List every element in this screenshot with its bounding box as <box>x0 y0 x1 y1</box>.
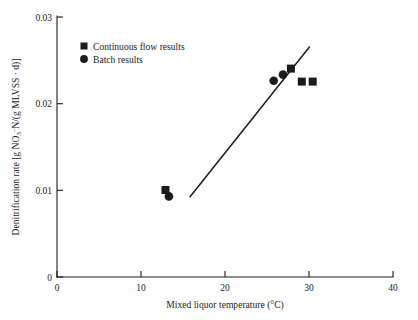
y-tick-label-003: 0.03 <box>35 13 52 23</box>
y-tick-label-000: 0 <box>47 273 52 283</box>
series-batch-markers <box>165 70 288 200</box>
series-continuous-flow-markers <box>162 65 317 194</box>
svg-text:Denitrification rate [g NO3–N/: Denitrification rate [g NO3–N/(g MLVSS ·… <box>10 59 22 236</box>
data-point-circle <box>269 76 278 85</box>
data-point-circle <box>279 70 288 79</box>
y-tick-label-002: 0.02 <box>35 99 52 109</box>
legend-marker-square-icon <box>81 43 88 50</box>
x-tick-label-0: 0 <box>55 283 60 293</box>
data-point-square <box>298 78 306 86</box>
legend-label-continuous-flow: Continuous flow results <box>93 41 185 52</box>
scatter-plot: 0.03 0.02 0.01 0 0 10 20 30 40 Mixed liq… <box>0 0 418 320</box>
data-point-square <box>287 65 295 73</box>
y-axis-title-tail: N/(g MLVSS · d)] <box>10 59 22 129</box>
x-tick-label-10: 10 <box>136 283 146 293</box>
chart-legend: Continuous flow results Batch results <box>80 41 185 65</box>
data-point-square <box>309 78 317 86</box>
legend-label-batch: Batch results <box>93 54 143 65</box>
x-tick-label-20: 20 <box>220 283 230 293</box>
x-axis-title: Mixed liquor temperature (°C) <box>166 299 284 311</box>
legend-marker-circle-icon <box>80 55 88 63</box>
y-tick-label-001: 0.01 <box>35 186 52 196</box>
data-point-circle <box>165 192 174 201</box>
y-axis-ticks: 0.03 0.02 0.01 0 <box>35 13 63 283</box>
y-axis-title: Denitrification rate [g NO3–N/(g MLVSS ·… <box>10 59 22 236</box>
x-axis-ticks: 0 10 20 30 40 <box>55 271 398 293</box>
y-axis-title-lead: Denitrification rate [g NO <box>10 136 21 236</box>
x-tick-label-40: 40 <box>388 283 398 293</box>
x-tick-label-30: 30 <box>304 283 314 293</box>
chart-figure: 0.03 0.02 0.01 0 0 10 20 30 40 Mixed liq… <box>0 0 418 320</box>
